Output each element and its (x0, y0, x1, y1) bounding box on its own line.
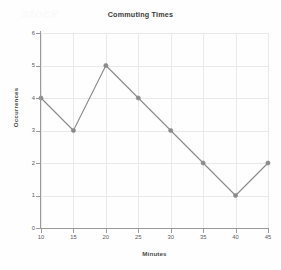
x-tick-label: 25 (126, 234, 150, 240)
data-point (201, 161, 205, 165)
x-tick-mark (106, 229, 107, 233)
x-tick-label: 15 (61, 234, 85, 240)
chart-container: stock Commuting Times Occurrences 012345… (0, 0, 281, 270)
y-tick-mark (36, 98, 40, 99)
x-tick-mark (41, 229, 42, 233)
data-point (104, 63, 108, 67)
data-point (71, 128, 75, 132)
y-tick-mark (36, 228, 40, 229)
x-tick-label: 30 (159, 234, 183, 240)
x-tick-mark (236, 229, 237, 233)
data-series (41, 33, 268, 228)
data-point (136, 96, 140, 100)
gridline-vertical (268, 33, 269, 228)
x-tick-label: 20 (94, 234, 118, 240)
x-tick-label: 45 (256, 234, 280, 240)
x-tick-mark (138, 229, 139, 233)
y-tick-label: 2 (13, 160, 35, 166)
x-axis-label: Minutes (41, 250, 268, 257)
y-tick-mark (36, 33, 40, 34)
y-tick-mark (36, 163, 40, 164)
plot-area (41, 33, 268, 228)
y-tick-mark (36, 66, 40, 67)
y-tick-mark (36, 131, 40, 132)
y-tick-mark (36, 196, 40, 197)
chart-title: Commuting Times (0, 10, 281, 19)
x-tick-label: 10 (29, 234, 53, 240)
y-tick-label: 6 (13, 30, 35, 36)
data-point (266, 161, 270, 165)
x-tick-label: 35 (191, 234, 215, 240)
y-tick-label: 1 (13, 192, 35, 198)
x-tick-mark (268, 229, 269, 233)
x-tick-mark (171, 229, 172, 233)
y-axis-line (40, 31, 41, 229)
y-tick-label: 4 (13, 95, 35, 101)
series-markers (39, 63, 270, 197)
x-tick-mark (73, 229, 74, 233)
x-tick-mark (203, 229, 204, 233)
y-tick-label: 3 (13, 127, 35, 133)
data-point (169, 128, 173, 132)
data-point (233, 193, 237, 197)
y-tick-label: 5 (13, 62, 35, 68)
y-tick-label: 0 (13, 225, 35, 231)
x-tick-label: 40 (224, 234, 248, 240)
